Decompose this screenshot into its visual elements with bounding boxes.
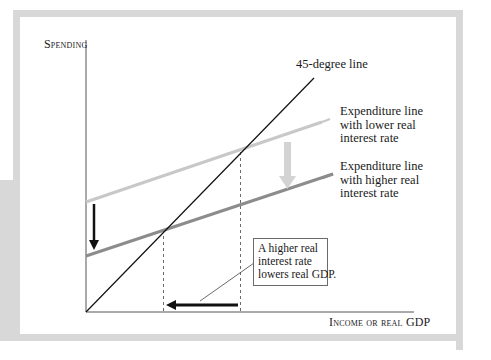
shift-down-arrow-black [89,204,99,250]
callout-line: interest rate [258,255,323,268]
expenditure-lower-label-line: Expenditure line [340,105,423,119]
expenditure-higher-label-line: with higher real [340,174,423,188]
callout-line: lowers real GDP. [258,268,323,281]
y-axis-label: Spending [44,38,87,52]
leader-line-lower [322,119,330,122]
shift-down-arrow-gray [279,142,296,189]
callout-box: A higher real interest rate lowers real … [253,238,328,286]
expenditure-lower-label: Expenditure line with lower real interes… [340,105,423,146]
expenditure-higher-label-line: Expenditure line [340,160,423,174]
callout-line: A higher real [258,242,323,255]
expenditure-higher-label: Expenditure line with higher real intere… [340,160,423,201]
gdp-decrease-arrow [166,300,238,310]
forty-five-degree-line-label: 45-degree line [296,58,368,72]
x-axis-label: Income or real GDP [329,316,431,330]
callout-pointer [200,263,254,301]
expenditure-higher-label-line: interest rate [340,187,423,201]
expenditure-lower-label-line: interest rate [340,132,423,146]
expenditure-lower-label-line: with lower real [340,119,423,133]
